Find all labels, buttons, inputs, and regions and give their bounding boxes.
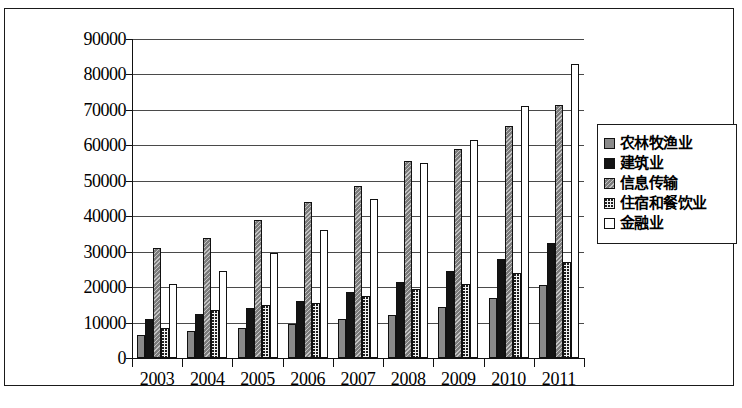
bar[interactable] <box>388 315 396 358</box>
bar[interactable] <box>254 220 262 358</box>
bar[interactable] <box>571 64 579 358</box>
y-axis-tick-label: 60000 <box>40 136 126 154</box>
x-axis-tick-label: 2006 <box>283 366 333 396</box>
x-axis-tick-mark <box>383 358 384 367</box>
bar[interactable] <box>161 328 169 358</box>
bar[interactable] <box>320 230 328 358</box>
x-axis-tick-label: 2004 <box>182 366 232 396</box>
bar[interactable] <box>219 271 227 358</box>
bar[interactable] <box>354 186 362 358</box>
legend-swatch-icon <box>604 218 615 229</box>
bar[interactable] <box>203 238 211 359</box>
bar[interactable] <box>497 259 505 358</box>
bar[interactable] <box>521 106 529 358</box>
bar[interactable] <box>270 253 278 358</box>
bar-group <box>232 39 282 358</box>
bar-group <box>433 39 483 358</box>
y-axis-tick-label: 70000 <box>40 101 126 119</box>
legend-swatch-icon <box>604 178 615 189</box>
bar[interactable] <box>513 273 521 358</box>
bar[interactable] <box>404 161 412 358</box>
x-axis-line <box>132 358 585 359</box>
x-axis-tick-mark <box>232 358 233 367</box>
legend-label: 信息传输 <box>620 176 678 191</box>
bar[interactable] <box>238 328 246 358</box>
y-axis-labels: 9000080000700006000050000400003000020000… <box>31 9 126 387</box>
bar-groups <box>132 39 584 358</box>
bar[interactable] <box>412 289 420 358</box>
bar[interactable] <box>211 310 219 358</box>
bar-group <box>182 39 232 358</box>
bar[interactable] <box>296 301 304 358</box>
x-axis-labels: 200320042005200620072008200920102011 <box>132 366 584 396</box>
y-axis-tick-mark <box>126 74 133 75</box>
bar[interactable] <box>470 140 478 358</box>
x-axis-tick-mark <box>132 358 133 367</box>
legend-item[interactable]: 农林牧渔业 <box>604 136 731 151</box>
bar[interactable] <box>446 271 454 358</box>
bar[interactable] <box>454 149 462 358</box>
legend-swatch-icon <box>604 198 615 209</box>
legend-item[interactable]: 建筑业 <box>604 156 731 171</box>
bar[interactable] <box>370 199 378 359</box>
bar[interactable] <box>555 105 563 358</box>
legend-label: 建筑业 <box>620 156 663 171</box>
x-axis-tick-mark <box>584 358 585 367</box>
bar[interactable] <box>539 285 547 358</box>
bar[interactable] <box>563 262 571 358</box>
y-axis-tick-mark <box>126 110 133 111</box>
bar[interactable] <box>547 243 555 358</box>
legend-swatch-icon <box>604 138 615 149</box>
bar-group <box>283 39 333 358</box>
x-axis-tick-mark <box>433 358 434 367</box>
x-axis-tick-label: 2005 <box>232 366 282 396</box>
bar-group <box>534 39 584 358</box>
bar[interactable] <box>505 126 513 358</box>
bar[interactable] <box>187 331 195 358</box>
bar[interactable] <box>153 248 161 358</box>
y-axis-tick-mark <box>126 181 133 182</box>
bar[interactable] <box>438 307 446 358</box>
bar[interactable] <box>396 282 404 358</box>
bar-group <box>383 39 433 358</box>
bar[interactable] <box>169 284 177 358</box>
bar[interactable] <box>338 319 346 358</box>
bar[interactable] <box>312 303 320 358</box>
x-axis-tick-label: 2007 <box>333 366 383 396</box>
bar[interactable] <box>246 308 254 358</box>
legend-item[interactable]: 信息传输 <box>604 176 731 191</box>
x-axis-tick-mark <box>534 358 535 367</box>
legend-swatch-icon <box>604 158 615 169</box>
y-axis-tick-label: 50000 <box>40 172 126 190</box>
bar[interactable] <box>262 305 270 358</box>
x-axis-tick-mark <box>182 358 183 367</box>
x-axis-tick-mark <box>484 358 485 367</box>
bar[interactable] <box>304 202 312 358</box>
bar[interactable] <box>346 292 354 358</box>
bar[interactable] <box>145 319 153 358</box>
y-axis-tick-mark <box>126 287 133 288</box>
x-axis-tick-label: 2008 <box>383 366 433 396</box>
y-axis-tick-label: 0 <box>40 349 126 367</box>
x-axis-tick-label: 2009 <box>433 366 483 396</box>
bar[interactable] <box>362 296 370 358</box>
legend-label: 金融业 <box>620 216 663 231</box>
y-axis-tick-label: 90000 <box>40 30 126 48</box>
bar-group <box>484 39 534 358</box>
legend-label: 农林牧渔业 <box>620 136 692 151</box>
bar[interactable] <box>195 314 203 358</box>
legend-item[interactable]: 金融业 <box>604 216 731 231</box>
bar[interactable] <box>462 284 470 358</box>
y-axis-tick-mark <box>126 323 133 324</box>
bar[interactable] <box>489 298 497 358</box>
y-axis-tick-label: 10000 <box>40 314 126 332</box>
bar[interactable] <box>137 335 145 358</box>
bar[interactable] <box>420 163 428 358</box>
legend-item[interactable]: 住宿和餐饮业 <box>604 196 731 211</box>
bar-group <box>132 39 182 358</box>
x-axis-tick-label: 2011 <box>534 366 584 396</box>
x-axis-tick-mark <box>283 358 284 367</box>
y-axis-tick-mark <box>126 216 133 217</box>
x-axis-tick-label: 2010 <box>484 366 534 396</box>
bar[interactable] <box>288 324 296 358</box>
